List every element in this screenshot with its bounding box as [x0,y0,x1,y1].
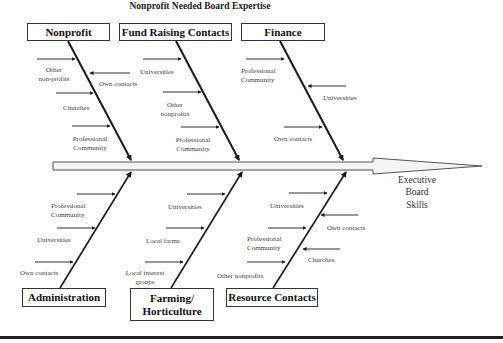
effect-label: Executive Board Skills [392,174,442,211]
cause-label: Universities [37,236,71,245]
cause-label: Own contacts [20,269,58,278]
cause-label: Own contacts [274,135,312,144]
category-label: Nonprofit [45,26,91,39]
cause-label: Professional Community [247,235,282,253]
cause-label: Other nonprofits [156,101,194,119]
cause-label: Churches [308,256,334,265]
cause-label: Own contacts [327,224,365,233]
bottom-divider [0,336,503,339]
category-box-administration: Administration [22,288,106,307]
category-label: Finance [264,26,301,39]
cause-label: Other nonprofits [217,272,263,281]
category-box-nonprofit: Nonprofit [27,23,110,41]
cause-label: Other non-profits [34,66,74,84]
cause-label: Universities [140,68,174,77]
category-label: Administration [28,291,100,304]
category-label-line1: Farming/ [150,292,194,305]
category-box-farming-horticulture: Farming/ Horticulture [130,288,214,321]
cause-label: Universities [270,202,304,211]
cause-label: Professional Community [241,67,276,85]
cause-label: Churches [63,104,89,113]
category-label: Fund Raising Contacts [122,26,230,39]
category-box-fund-raising-contacts: Fund Raising Contacts [119,23,232,41]
cause-label: Own contacts [99,80,137,89]
category-box-finance: Finance [241,23,325,41]
spine-arrow [53,158,482,174]
cause-label: Local farms [146,237,180,246]
cause-label: Professional Community [68,135,112,153]
cause-label: Professional Community [171,136,215,154]
bone-farming [171,172,242,288]
cause-label: Universities [168,203,202,212]
cause-label: Local interest groups [120,269,170,287]
category-label: Resource Contacts [228,291,315,304]
cause-label: Professional Community [51,202,86,220]
category-box-resource-contacts: Resource Contacts [226,288,318,307]
cause-label: Universities [323,94,357,103]
category-label-line2: Horticulture [142,305,201,318]
